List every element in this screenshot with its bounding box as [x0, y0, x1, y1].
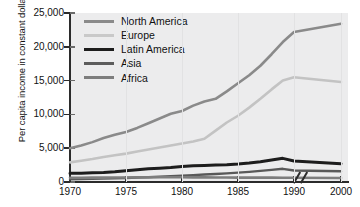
y-axis-tick-inner [70, 114, 75, 116]
y-axis-tick [64, 80, 69, 82]
y-axis-tick-label: 10,000 [33, 108, 64, 119]
x-axis-tick-label: 1980 [162, 186, 202, 197]
legend-item-latin-america[interactable]: Latin America [84, 42, 188, 56]
x-axis-line [69, 181, 349, 183]
y-axis-tick [64, 181, 69, 183]
y-axis-tick [64, 12, 69, 14]
legend-swatch-icon [84, 62, 114, 65]
legend-swatch-icon [84, 34, 114, 37]
legend-swatch-icon [84, 48, 114, 51]
vertical-gridline [294, 13, 295, 182]
vertical-gridline [341, 13, 342, 182]
legend-item-africa[interactable]: Africa [84, 71, 188, 85]
y-axis-tick-inner [70, 46, 75, 48]
x-axis-tick [69, 176, 71, 182]
legend-swatch-icon [84, 20, 114, 23]
vertical-gridline [182, 13, 183, 182]
vertical-gridline [126, 13, 127, 182]
x-axis-tick-label: 1970 [50, 186, 90, 197]
y-axis-line [69, 12, 71, 183]
legend-label: North America [121, 16, 188, 27]
y-axis-title: Per capita income in constant dollars [16, 0, 27, 162]
legend-item-europe[interactable]: Europe [84, 28, 188, 42]
vertical-gridline [238, 13, 239, 182]
legend-label: Latin America [121, 44, 185, 55]
x-axis-tick-label: 1990 [274, 186, 314, 197]
y-axis-tick-inner [70, 181, 75, 183]
y-axis-tick-label: 20,000 [33, 41, 64, 52]
y-axis-tick-inner [70, 80, 75, 82]
y-axis-tick-inner [70, 12, 75, 14]
chart-figure: Per capita income in constant dollars 25… [0, 0, 360, 207]
y-axis-tick-label: 5,000 [39, 142, 64, 153]
y-axis-tick [64, 46, 69, 48]
legend-swatch-icon [84, 76, 114, 79]
x-axis-tick-label: 1985 [218, 186, 258, 197]
x-axis-tick-label: 2000 [321, 186, 360, 197]
chart-legend: North AmericaEuropeLatin AmericaAsiaAfri… [84, 14, 188, 85]
legend-label: Asia [121, 58, 141, 69]
y-axis-tick [64, 114, 69, 116]
legend-item-asia[interactable]: Asia [84, 57, 188, 71]
y-axis-tick-label: 15,000 [33, 75, 64, 86]
y-axis-tick [64, 147, 69, 149]
y-axis-tick-inner [70, 147, 75, 149]
x-axis-tick-label: 1975 [106, 186, 146, 197]
legend-item-north-america[interactable]: North America [84, 14, 188, 28]
y-axis-tick-label: 25,000 [33, 7, 64, 18]
